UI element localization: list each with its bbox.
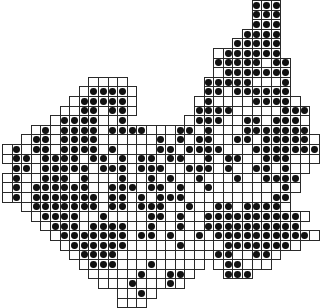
record-dot-icon <box>81 117 88 124</box>
record-dot-icon <box>81 242 88 249</box>
grid-square-empty <box>261 259 272 270</box>
record-dot-icon <box>292 223 299 230</box>
record-dot-icon <box>148 213 155 220</box>
record-dot-icon <box>129 280 136 287</box>
record-dot-icon <box>263 146 270 153</box>
record-dot-icon <box>225 213 232 220</box>
record-dot-icon <box>253 223 260 230</box>
record-dot-icon <box>225 223 232 230</box>
record-dot-icon <box>119 165 126 172</box>
record-dot-icon <box>42 194 49 201</box>
record-dot-icon <box>167 175 174 182</box>
record-dot-icon <box>81 146 88 153</box>
record-dot-icon <box>244 136 251 143</box>
record-dot-icon <box>234 79 241 86</box>
record-dot-icon <box>71 127 78 134</box>
record-dot-icon <box>81 251 88 258</box>
record-dot-icon <box>81 184 88 191</box>
record-dot-icon <box>311 146 318 153</box>
grid-square-empty <box>136 298 147 308</box>
record-dot-icon <box>100 165 107 172</box>
record-dot-icon <box>196 117 203 124</box>
record-dot-icon <box>215 79 222 86</box>
record-dot-icon <box>100 98 107 105</box>
record-dot-icon <box>13 175 20 182</box>
record-dot-icon <box>109 223 116 230</box>
record-dot-icon <box>282 223 289 230</box>
record-dot-icon <box>225 232 232 239</box>
grid-square-empty <box>194 259 205 270</box>
record-dot-icon <box>234 223 241 230</box>
record-dot-icon <box>273 194 280 201</box>
record-dot-icon <box>81 175 88 182</box>
record-dot-icon <box>81 107 88 114</box>
record-dot-icon <box>177 127 184 134</box>
record-dot-icon <box>273 11 280 18</box>
record-dot-icon <box>90 98 97 105</box>
record-dot-icon <box>234 175 241 182</box>
record-dot-icon <box>263 31 270 38</box>
record-dot-icon <box>119 98 126 105</box>
record-dot-icon <box>71 213 78 220</box>
record-dot-icon <box>52 194 59 201</box>
record-dot-icon <box>81 232 88 239</box>
record-dot-icon <box>225 242 232 249</box>
record-dot-icon <box>273 146 280 153</box>
record-dot-icon <box>177 223 184 230</box>
record-dot-icon <box>244 50 251 57</box>
record-dot-icon <box>244 127 251 134</box>
record-dot-icon <box>292 136 299 143</box>
record-dot-icon <box>234 50 241 57</box>
record-dot-icon <box>282 175 289 182</box>
record-dot-icon <box>138 271 145 278</box>
record-dot-icon <box>167 194 174 201</box>
record-dot-icon <box>263 242 270 249</box>
record-dot-icon <box>292 232 299 239</box>
record-dot-icon <box>100 261 107 268</box>
record-dot-icon <box>244 223 251 230</box>
record-dot-icon <box>225 261 232 268</box>
record-dot-icon <box>42 127 49 134</box>
record-dot-icon <box>205 127 212 134</box>
record-dot-icon <box>52 223 59 230</box>
record-dot-icon <box>225 165 232 172</box>
record-dot-icon <box>244 40 251 47</box>
record-dot-icon <box>81 136 88 143</box>
record-dot-icon <box>282 127 289 134</box>
record-dot-icon <box>273 127 280 134</box>
record-dot-icon <box>81 194 88 201</box>
record-dot-icon <box>71 194 78 201</box>
record-dot-icon <box>225 203 232 210</box>
grid-square-empty <box>146 288 157 299</box>
record-dot-icon <box>244 242 251 249</box>
record-dot-icon <box>196 146 203 153</box>
record-dot-icon <box>33 146 40 153</box>
record-dot-icon <box>282 98 289 105</box>
record-dot-icon <box>273 117 280 124</box>
record-dot-icon <box>100 223 107 230</box>
record-dot-icon <box>119 127 126 134</box>
record-dot-icon <box>273 242 280 249</box>
record-dot-icon <box>148 165 155 172</box>
record-dot-icon <box>273 213 280 220</box>
record-dot-icon <box>225 155 232 162</box>
record-dot-icon <box>234 271 241 278</box>
record-dot-icon <box>52 184 59 191</box>
grid-square-empty <box>271 250 282 261</box>
record-dot-icon <box>273 69 280 76</box>
record-dot-icon <box>119 242 126 249</box>
record-dot-icon <box>273 98 280 105</box>
grid-square-empty <box>300 211 311 222</box>
record-dot-icon <box>71 165 78 172</box>
grid-square-empty <box>184 269 195 280</box>
record-dot-icon <box>33 136 40 143</box>
grid-square-empty <box>290 240 301 251</box>
record-dot-icon <box>292 175 299 182</box>
record-dot-icon <box>100 88 107 95</box>
record-dot-icon <box>263 165 270 172</box>
record-dot-icon <box>244 88 251 95</box>
record-dot-icon <box>282 242 289 249</box>
record-dot-icon <box>100 232 107 239</box>
record-dot-icon <box>273 203 280 210</box>
